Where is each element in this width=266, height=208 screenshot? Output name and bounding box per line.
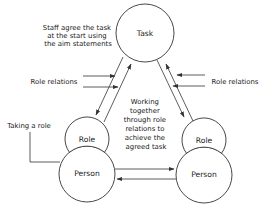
role-right-label: Role [196, 136, 213, 145]
working-line-3: through role [124, 116, 166, 124]
working-line-2: together [130, 107, 160, 115]
role-left-label: Role [79, 135, 96, 144]
task-label: Task [136, 29, 154, 38]
node-person-right: Person [176, 147, 232, 203]
taking-a-role-connector [30, 132, 60, 162]
node-person-left: Person [59, 146, 115, 202]
staff-agree-annotation: Staff agree the task at the start using … [43, 24, 113, 48]
working-together-annotation: Working together through role relations … [124, 98, 169, 151]
working-line-5: achieve the [125, 134, 165, 142]
staff-agree-line-2: at the start using [47, 32, 106, 40]
edge-role-right-to-task [166, 64, 193, 121]
working-line-6: agreed task [126, 143, 167, 151]
role-relations-right-label: Role relations [212, 78, 259, 86]
edge-role-left-to-task [104, 64, 131, 122]
team-role-diagram: Task Person Role Person Role Staff agree… [0, 0, 266, 208]
person-right-label: Person [191, 170, 217, 179]
edge-task-to-role-left [96, 57, 123, 115]
staff-agree-line-3: the aim statements [44, 40, 112, 48]
working-line-1: Working [131, 98, 159, 106]
taking-a-role-label: Taking a role [6, 122, 51, 130]
role-relations-left-label: Role relations [31, 78, 78, 86]
node-task: Task [116, 4, 174, 62]
working-line-4: relations to [125, 125, 164, 133]
staff-agree-line-1: Staff agree the task [43, 24, 111, 32]
person-left-label: Person [74, 169, 100, 178]
